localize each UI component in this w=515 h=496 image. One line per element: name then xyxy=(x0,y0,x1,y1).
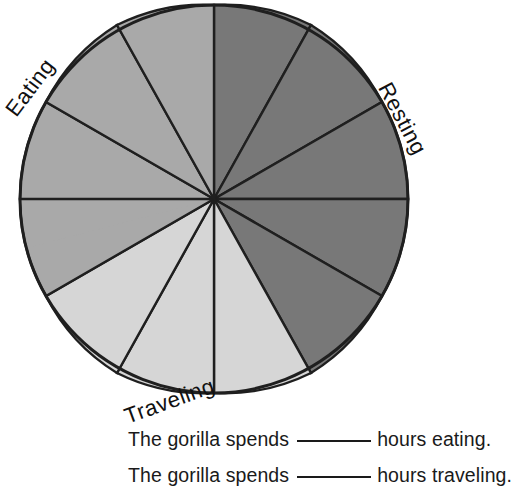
sentence-row-eating: The gorilla spends hours eating. xyxy=(0,428,515,462)
sentence-2-prefix: The gorilla spends xyxy=(128,464,289,487)
sentence-2-suffix: hours traveling. xyxy=(377,464,512,487)
pie-chart: Eating Resting Traveling xyxy=(0,0,430,430)
worksheet-sentences: The gorilla spends hours eating. The gor… xyxy=(0,428,515,496)
sentence-row-traveling: The gorilla spends hours traveling. xyxy=(0,464,515,496)
sentence-1-prefix: The gorilla spends xyxy=(128,428,289,451)
sentence-1-suffix: hours eating. xyxy=(377,428,491,451)
pie-slices xyxy=(20,5,408,394)
sentence-2-answer-blank[interactable] xyxy=(297,475,371,478)
sentence-1-answer-blank[interactable] xyxy=(297,439,371,442)
pie-chart-svg: Eating Resting Traveling xyxy=(0,0,430,430)
